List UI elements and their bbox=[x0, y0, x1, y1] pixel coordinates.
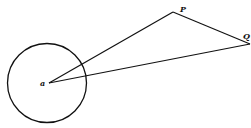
label-p: P bbox=[179, 4, 187, 14]
label-a: a bbox=[40, 78, 45, 88]
circle bbox=[8, 44, 87, 123]
segment-a-p bbox=[49, 12, 173, 83]
geometry-diagram: a P Q bbox=[0, 0, 251, 128]
segment-p-q bbox=[173, 12, 250, 44]
label-q: Q bbox=[243, 31, 250, 41]
segment-q-a bbox=[49, 44, 250, 83]
